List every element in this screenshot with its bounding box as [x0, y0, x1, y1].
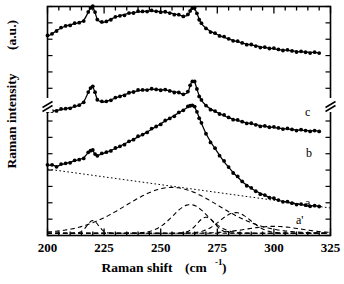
series-c-point: [197, 18, 201, 22]
series-a-point: [136, 134, 140, 138]
series-c-point: [193, 6, 197, 10]
series-b-point: [213, 109, 217, 113]
series-a-point: [177, 111, 181, 115]
series-a-point: [100, 151, 104, 155]
series-b-point: [209, 108, 213, 112]
series-c-point: [249, 43, 253, 47]
series-c-point: [114, 15, 118, 19]
series-a-point: [181, 108, 185, 112]
series-b-point: [177, 91, 181, 95]
series-a-point: [95, 154, 99, 158]
series-a-point: [249, 186, 253, 190]
series-a-point: [209, 141, 213, 145]
series-a-point: [163, 119, 167, 123]
series-c-point: [168, 11, 172, 15]
series-b-point: [150, 87, 154, 91]
series-c-point: [281, 49, 285, 53]
series-a-point: [104, 150, 108, 154]
series-c-point: [267, 47, 271, 51]
series-b-point: [267, 125, 271, 129]
series-b-point: [240, 120, 244, 124]
series-b-point: [258, 124, 262, 128]
series-b-point: [227, 116, 231, 120]
x-tick-label-200: 200: [38, 240, 58, 255]
series-b-point: [317, 130, 321, 134]
series-a-point: [254, 189, 258, 193]
series-a-point: [245, 184, 249, 188]
series-c-point: [313, 50, 317, 54]
series-b-point: [290, 128, 294, 132]
series-c-point: [231, 39, 235, 43]
series-b-point: [222, 113, 226, 117]
series-a-point: [286, 200, 290, 204]
x-tick-label-300: 300: [264, 240, 284, 255]
series-c-point: [177, 13, 181, 17]
series-a-point: [150, 127, 154, 131]
series-c-point: [240, 41, 244, 45]
series-b-point: [295, 129, 299, 133]
series-a-point: [159, 122, 163, 126]
series-b-point: [159, 88, 163, 92]
series-c-point: [95, 18, 99, 22]
series-a-point: [281, 200, 285, 204]
series-c-point: [118, 14, 122, 18]
series-b-point: [141, 88, 145, 92]
label-b: b: [306, 146, 312, 160]
series-a-point: [193, 105, 197, 109]
series-b-point: [68, 106, 72, 110]
series-a-point: [59, 162, 63, 166]
series-a-point: [114, 146, 118, 150]
series-b-point: [100, 99, 104, 103]
series-c-point: [68, 24, 72, 28]
series-b-point: [163, 88, 167, 92]
series-c-point: [50, 32, 54, 36]
series-b-point: [299, 128, 303, 132]
series-a-point: [77, 158, 81, 162]
series-a-point: [240, 180, 244, 184]
series-c-point: [123, 13, 127, 17]
series-b-point: [82, 100, 86, 104]
series-a-point: [127, 139, 131, 143]
series-c-point: [82, 19, 86, 23]
series-c-point: [86, 10, 90, 14]
series-a-point: [272, 196, 276, 200]
series-c-point: [308, 51, 312, 55]
series-a-point: [123, 143, 127, 147]
series-c-point: [286, 48, 290, 52]
series-c-point: [195, 11, 199, 15]
series-b-point: [286, 126, 290, 130]
series-b-point: [193, 80, 197, 84]
series-c-point: [218, 34, 222, 38]
series-c-point: [127, 11, 131, 15]
series-a-point: [154, 125, 158, 129]
series-c-point: [227, 37, 231, 41]
x-tick-label-275: 275: [208, 240, 228, 255]
series-b-point: [154, 88, 158, 92]
series-c-point: [272, 46, 276, 50]
series-a-point: [295, 203, 299, 207]
series-b-point: [304, 129, 308, 133]
series-a-point: [172, 114, 176, 118]
series-c-point: [73, 21, 77, 25]
series-b-point: [236, 118, 240, 122]
series-a-point: [195, 110, 199, 114]
series-b-point: [168, 89, 172, 93]
series-b-point: [254, 123, 258, 127]
series-c-point: [290, 49, 294, 53]
series-c-point: [77, 21, 81, 25]
series-c-point: [317, 51, 321, 55]
series-b-point: [127, 91, 131, 95]
x-tick-label-225: 225: [94, 240, 114, 255]
series-b-point: [200, 98, 204, 102]
series-a-point: [82, 157, 86, 161]
series-c-point: [258, 46, 262, 50]
series-b-point: [263, 124, 267, 128]
series-a-point: [267, 196, 271, 200]
series-b-point: [77, 103, 81, 107]
series-c-point: [100, 20, 104, 24]
series-b-point: [132, 90, 136, 94]
series-b-point: [308, 130, 312, 134]
y-axis-unit-text: (a.u.): [4, 20, 19, 50]
series-b-point: [109, 98, 113, 102]
series-c-point: [222, 35, 226, 39]
